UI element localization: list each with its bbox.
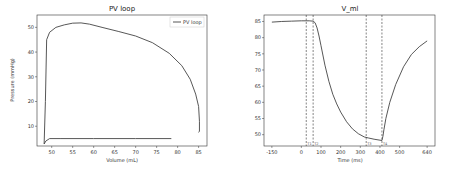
legend: PV loop xyxy=(170,17,204,27)
series-line-v-ml xyxy=(272,21,427,141)
x-tick-label: 85 xyxy=(195,149,201,155)
series-line-pv-loop xyxy=(44,23,199,144)
y-tick-label: 55 xyxy=(255,115,261,121)
x-tick-label: 75 xyxy=(153,149,159,155)
x-tick-label: 400 xyxy=(375,149,385,155)
y-tick-label: 40 xyxy=(28,49,34,55)
y-tick-label: 65 xyxy=(255,83,261,89)
x-tick-label: 50 xyxy=(49,149,55,155)
chart-title: PV loop xyxy=(109,5,136,13)
x-tick-label: 65 xyxy=(111,149,117,155)
x-tick-label: 300 xyxy=(356,149,366,155)
event-marker-label: T3 xyxy=(366,142,371,146)
figure: PV loop 5055606570758085 1020304050 Volu… xyxy=(0,0,451,172)
y-tick-label: 20 xyxy=(28,98,34,104)
y-tick-label: 50 xyxy=(255,131,261,137)
plot-frame xyxy=(264,15,435,146)
y-axis-label: Pressure (mmHg) xyxy=(9,58,16,102)
x-tick-label: 80 xyxy=(174,149,180,155)
y-tick-label: 85 xyxy=(255,18,261,24)
y-tick-label: 60 xyxy=(255,99,261,105)
y-tick-label: 75 xyxy=(255,51,261,57)
x-tick-label: 100 xyxy=(316,149,326,155)
y-tick-label: 50 xyxy=(28,24,34,30)
event-marker-label: T1 xyxy=(306,142,311,146)
x-tick-label: 60 xyxy=(90,149,96,155)
x-axis-label: Time (ms) xyxy=(336,157,362,163)
x-tick-label: 55 xyxy=(69,149,75,155)
y-tick-label: 80 xyxy=(255,34,261,40)
x-tick-label: 0 xyxy=(300,149,303,155)
event-marker-label: T2 xyxy=(313,142,318,146)
chart-title: V_ml xyxy=(341,5,358,13)
y-tick-label: 10 xyxy=(28,123,34,129)
x-tick-label: 500 xyxy=(395,149,405,155)
event-marker-label: T4 xyxy=(382,142,388,146)
y-tick-label: 70 xyxy=(255,67,261,73)
x-axis-label: Volume (mL) xyxy=(106,157,138,163)
legend-entry: PV loop xyxy=(183,19,202,26)
x-tick-label: 640 xyxy=(422,149,432,155)
v-ml-chart: V_ml -1500100200300400500640 50556065707… xyxy=(255,5,435,163)
pv-loop-chart: PV loop 5055606570758085 1020304050 Volu… xyxy=(9,5,207,163)
x-tick-label: -150 xyxy=(266,149,277,155)
x-tick-label: 70 xyxy=(132,149,138,155)
plot-frame xyxy=(37,15,207,146)
x-tick-label: 200 xyxy=(336,149,346,155)
y-tick-label: 30 xyxy=(28,74,34,80)
